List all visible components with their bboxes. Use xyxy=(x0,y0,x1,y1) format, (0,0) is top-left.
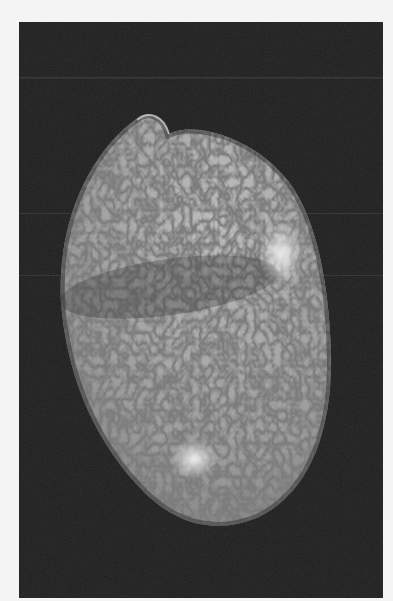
highlight-lower xyxy=(170,439,218,479)
shell-photo-svg xyxy=(19,22,383,598)
scan-line xyxy=(19,77,383,79)
shell-photo xyxy=(19,22,383,598)
highlight-upper xyxy=(259,222,303,286)
